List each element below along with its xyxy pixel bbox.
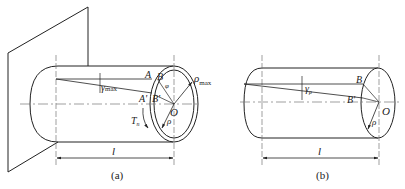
label-phi: φ <box>165 82 169 90</box>
caption-b: (b) <box>316 169 329 182</box>
panel-a: A B φ A' B' O γmax ρmax ρ Tn l (a) <box>8 7 212 182</box>
label-B-b: B <box>356 74 362 85</box>
label-B: B <box>157 71 163 82</box>
panel-b: B B' O γρ ρ l (b) <box>240 55 400 182</box>
label-length-b: l <box>318 145 321 157</box>
label-length-a: l <box>112 145 115 157</box>
fixed-wall <box>8 7 88 172</box>
label-B-prime: B' <box>152 93 161 104</box>
label-A-prime: A' <box>138 93 148 104</box>
label-gamma-max: γmax <box>101 82 118 93</box>
label-B-prime-b: B' <box>347 94 356 105</box>
label-torque: Tn <box>131 115 140 127</box>
label-rho-a: ρ <box>166 116 172 126</box>
torsion-diagram: A B φ A' B' O γmax ρmax ρ Tn l (a) B B' … <box>0 0 405 189</box>
caption-a: (a) <box>111 169 124 182</box>
label-O-b: O <box>382 105 390 117</box>
label-rho-max: ρmax <box>193 72 212 87</box>
label-A: A <box>144 69 152 80</box>
label-gamma-rho: γρ <box>305 83 312 95</box>
torque-arrow <box>143 108 148 128</box>
end-face-b <box>361 68 395 138</box>
label-rho-b: ρ <box>371 117 377 127</box>
